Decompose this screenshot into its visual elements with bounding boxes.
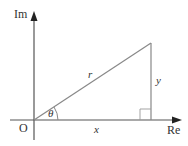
angle-label: θ	[48, 107, 54, 119]
origin-label: O	[19, 121, 28, 135]
im-axis-label: Im	[14, 7, 28, 21]
right-angle-marker-icon	[140, 109, 151, 120]
angle-arc-icon	[54, 107, 58, 120]
hypotenuse-label: r	[88, 68, 93, 80]
adjacent-label: x	[93, 123, 99, 135]
argand-diagram: Im Re O r x y θ	[0, 0, 188, 146]
re-axis-label: Re	[167, 123, 180, 137]
opposite-label: y	[155, 74, 161, 86]
im-axis-arrow-icon	[31, 11, 38, 21]
